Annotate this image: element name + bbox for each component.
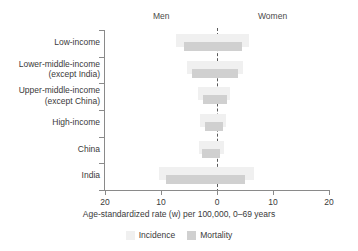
category-label-line: Low-income — [0, 37, 100, 48]
y-axis-tick — [99, 163, 104, 164]
category-label: High-income — [0, 117, 100, 128]
bar-mortality — [166, 175, 245, 184]
y-axis-tick — [99, 110, 104, 111]
men-side-label: Men — [153, 11, 170, 21]
x-axis-tick — [273, 190, 274, 195]
category-label-line: China — [0, 144, 100, 155]
y-axis-tick — [99, 83, 104, 84]
x-axis-tick-label: 10 — [258, 197, 288, 207]
chart-container: Men Women Low-incomeLower-middle-income(… — [0, 0, 358, 251]
legend-item: Incidence — [126, 230, 175, 240]
x-axis-tick-label: 20 — [314, 197, 344, 207]
category-label: Upper-middle-income(except China) — [0, 85, 100, 106]
women-side-label: Women — [258, 11, 287, 21]
y-axis-tick — [99, 190, 104, 191]
category-label-line: (except China) — [0, 96, 100, 107]
category-label-line: India — [0, 170, 100, 181]
y-axis-tick — [99, 30, 104, 31]
x-axis-title: Age-standardized rate (w) per 100,000, 0… — [0, 209, 358, 219]
category-label: India — [0, 170, 100, 181]
bar-mortality — [184, 42, 242, 51]
bar-mortality — [203, 95, 227, 104]
x-axis-tick — [329, 190, 330, 195]
bar-mortality — [202, 149, 220, 158]
x-axis-tick — [161, 190, 162, 195]
legend-label: Mortality — [200, 230, 232, 240]
plot-area — [105, 30, 329, 190]
category-label-line: Upper-middle-income — [0, 85, 100, 96]
x-axis-tick-label: 10 — [146, 197, 176, 207]
legend-swatch-icon — [126, 231, 135, 240]
category-label: Low-income — [0, 37, 100, 48]
chart-legend: IncidenceMortality — [0, 230, 358, 240]
category-label-line: (except India) — [0, 69, 100, 80]
x-axis-tick — [105, 190, 106, 195]
y-axis-tick — [99, 137, 104, 138]
category-label-line: High-income — [0, 117, 100, 128]
x-axis-tick-label: 20 — [90, 197, 120, 207]
y-axis-tick — [99, 57, 104, 58]
x-axis-tick-label: 0 — [202, 197, 232, 207]
bar-mortality — [192, 69, 238, 78]
bar-mortality — [205, 122, 223, 131]
category-label: China — [0, 144, 100, 155]
legend-label: Incidence — [139, 230, 175, 240]
legend-swatch-icon — [187, 231, 196, 240]
x-axis-tick — [217, 190, 218, 195]
legend-item: Mortality — [187, 230, 232, 240]
category-label: Lower-middle-income(except India) — [0, 59, 100, 80]
category-label-line: Lower-middle-income — [0, 59, 100, 70]
category-axis-labels: Low-incomeLower-middle-income(except Ind… — [0, 30, 100, 190]
